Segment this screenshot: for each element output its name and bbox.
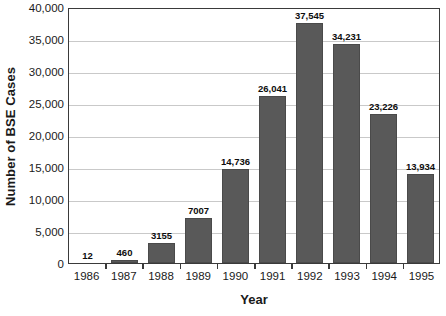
plot-area: 124603155700714,73626,04137,54534,23123,… <box>68 8 440 264</box>
x-axis-tick <box>180 264 182 269</box>
x-axis-tick-label: 1987 <box>105 270 142 290</box>
bar-value-label: 37,545 <box>295 10 324 21</box>
bar-slot[interactable]: 26,041 <box>254 9 291 263</box>
bar-value-label: 460 <box>117 247 133 258</box>
bar-slot[interactable]: 3155 <box>143 9 180 263</box>
y-axis-title: Number of BSE Cases <box>0 0 22 272</box>
x-axis-tick-label: 1990 <box>217 270 254 290</box>
y-axis-tick-label: 15,000 <box>29 162 64 174</box>
bar-value-label: 14,736 <box>221 156 250 167</box>
y-axis-tick-label: 25,000 <box>29 98 64 110</box>
x-axis-tick-label: 1993 <box>328 270 365 290</box>
y-axis-tick-label: 35,000 <box>29 34 64 46</box>
x-axis-tick-label: 1994 <box>366 270 403 290</box>
y-axis-tick-label: 40,000 <box>29 2 64 14</box>
bar-value-label: 26,041 <box>258 83 287 94</box>
x-axis-tick <box>366 264 368 269</box>
bar[interactable] <box>259 96 286 263</box>
x-axis-tick <box>142 264 144 269</box>
bar-slot[interactable]: 37,545 <box>291 9 328 263</box>
x-axis-tick-labels: 1986198719881989199019911992199319941995 <box>68 270 440 290</box>
x-axis-tick-label: 1995 <box>403 270 440 290</box>
x-axis-tick <box>291 264 293 269</box>
x-axis-tick-label: 1992 <box>291 270 328 290</box>
bar-slot[interactable]: 23,226 <box>365 9 402 263</box>
bar-value-label: 7007 <box>188 205 209 216</box>
bar-value-label: 3155 <box>151 230 172 241</box>
x-axis-tick-label: 1989 <box>180 270 217 290</box>
y-axis-tick-label: 10,000 <box>29 194 64 206</box>
bse-cases-bar-chart: Number of BSE Cases 05,00010,00015,00020… <box>0 0 446 316</box>
bar[interactable] <box>222 169 249 263</box>
x-axis-tick-label: 1986 <box>68 270 105 290</box>
bar-slot[interactable]: 14,736 <box>217 9 254 263</box>
x-axis-tick <box>105 264 107 269</box>
y-axis-tick-labels: 05,00010,00015,00020,00025,00030,00035,0… <box>22 8 67 264</box>
bar-value-label: 12 <box>82 250 93 261</box>
y-axis-title-text: Number of BSE Cases <box>4 66 19 205</box>
bar-slot[interactable]: 12 <box>69 9 106 263</box>
x-axis-tick <box>217 264 219 269</box>
bar-slot[interactable]: 13,934 <box>402 9 439 263</box>
bar-value-label: 13,934 <box>406 161 435 172</box>
bar[interactable] <box>407 174 434 263</box>
bar-slot[interactable]: 34,231 <box>328 9 365 263</box>
bar-value-label: 34,231 <box>332 31 361 42</box>
x-axis-tick-marks <box>68 264 440 269</box>
y-axis-tick-label: 20,000 <box>29 130 64 142</box>
y-axis-tick-label: 5,000 <box>35 226 64 238</box>
y-axis-tick-label: 0 <box>58 258 64 270</box>
bar-value-label: 23,226 <box>369 101 398 112</box>
bar[interactable] <box>296 23 323 263</box>
x-axis-tick-label: 1991 <box>254 270 291 290</box>
x-axis-title: Year <box>68 292 440 307</box>
bar-slot[interactable]: 460 <box>106 9 143 263</box>
bars-layer: 124603155700714,73626,04137,54534,23123,… <box>69 9 439 263</box>
bar[interactable] <box>370 114 397 263</box>
bar[interactable] <box>333 44 360 263</box>
bar[interactable] <box>111 260 138 263</box>
x-axis-tick <box>254 264 256 269</box>
y-axis-tick-label: 30,000 <box>29 66 64 78</box>
bar-slot[interactable]: 7007 <box>180 9 217 263</box>
x-axis-tick <box>328 264 330 269</box>
bar[interactable] <box>148 243 175 263</box>
bar[interactable] <box>185 218 212 263</box>
x-axis-tick-label: 1988 <box>142 270 179 290</box>
x-axis-tick <box>403 264 405 269</box>
